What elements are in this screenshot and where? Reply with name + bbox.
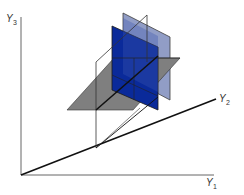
y2-axis (21, 99, 216, 175)
y3-axis-subscript: 3 (13, 19, 17, 26)
y2-axis-subscript: 2 (226, 99, 230, 106)
y1-axis-subscript: 1 (213, 183, 217, 190)
three-axis-plane-diagram: Y 3 Y 2 Y 1 (0, 0, 244, 195)
